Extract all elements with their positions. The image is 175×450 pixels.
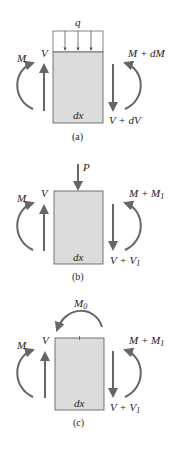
applied-moment-arrow-icon xyxy=(57,311,102,330)
right-moment-label: M + M1 xyxy=(128,334,164,348)
left-moment-label: M xyxy=(16,52,27,64)
panel-c: M0 dx M V V + V1 M + M1 (c) xyxy=(16,297,164,429)
panel-caption: (a) xyxy=(72,131,83,143)
load-label: q xyxy=(75,16,81,28)
right-shear-label: V + V1 xyxy=(110,254,140,268)
element-length-label: dx xyxy=(74,397,85,409)
left-moment-arrow-icon xyxy=(17,203,33,250)
right-moment-arrow-icon xyxy=(125,350,141,397)
right-moment-arrow-icon xyxy=(125,203,141,250)
panel-caption: (c) xyxy=(73,417,84,429)
right-shear-label: V + dV xyxy=(109,114,142,126)
panel-a: q dx M V V + dV M + dM (a) xyxy=(16,16,166,143)
right-moment-label: M + M1 xyxy=(128,187,164,201)
left-moment-arrow-icon xyxy=(17,63,33,109)
right-shear-label: V + V1 xyxy=(110,401,140,415)
right-moment-arrow-icon xyxy=(125,63,141,109)
applied-moment-label: M0 xyxy=(73,297,87,311)
panel-caption: (b) xyxy=(72,271,84,283)
element-length-label: dx xyxy=(73,109,84,121)
left-shear-label: V xyxy=(41,187,49,199)
left-moment-label: M xyxy=(16,339,27,351)
right-moment-label: M + dM xyxy=(127,47,166,59)
panel-b: P dx M V V + V1 M + M1 (b) xyxy=(16,161,164,283)
element-length-label: dx xyxy=(73,251,84,263)
beam-element-diagrams: q dx M V V + dV M + dM (a) P dx M V xyxy=(0,0,175,450)
left-shear-label: V xyxy=(41,47,49,59)
left-moment-label: M xyxy=(16,192,27,204)
left-shear-label: V xyxy=(42,334,50,346)
load-label: P xyxy=(82,161,90,173)
left-moment-arrow-icon xyxy=(17,350,33,397)
